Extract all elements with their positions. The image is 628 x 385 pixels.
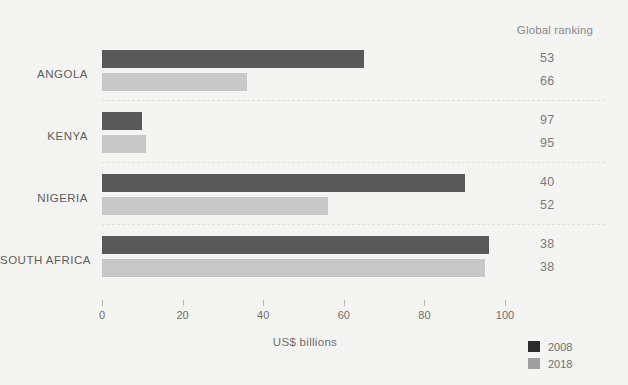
bar-track: [102, 50, 505, 68]
axis-tick-label: 100: [485, 309, 525, 321]
bar-chart: Global ranking ANGOLA5366KENYA9795NIGERI…: [0, 0, 628, 385]
bar-2008[interactable]: [102, 112, 142, 130]
bar-track: [102, 236, 505, 254]
category-label: SOUTH AFRICA: [0, 254, 88, 266]
bar-2008[interactable]: [102, 50, 364, 68]
axis-tick: [183, 300, 184, 306]
category-label: ANGOLA: [0, 68, 88, 80]
global-ranking-value: 95: [540, 136, 586, 150]
bar-track: [102, 73, 505, 91]
bar-2008[interactable]: [102, 174, 465, 192]
bar-2018[interactable]: [102, 259, 485, 277]
category-label: NIGERIA: [0, 192, 88, 204]
group-separator: [102, 162, 605, 163]
global-ranking-value: 66: [540, 74, 586, 88]
bar-group: ANGOLA5366: [0, 50, 628, 107]
axis-tick: [263, 300, 264, 306]
global-ranking-value: 40: [540, 175, 586, 189]
bar-track: [102, 135, 505, 153]
global-ranking-value: 97: [540, 113, 586, 127]
bar-track: [102, 112, 505, 130]
category-label: KENYA: [0, 130, 88, 142]
legend-label-2008: 2008: [548, 341, 572, 353]
global-ranking-value: 52: [540, 198, 586, 212]
bar-group: SOUTH AFRICA3838: [0, 236, 628, 293]
bar-group: NIGERIA4052: [0, 174, 628, 231]
axis-tick: [344, 300, 345, 306]
global-ranking-value: 53: [540, 51, 586, 65]
legend-label-2018: 2018: [548, 358, 572, 370]
axis-tick: [424, 300, 425, 306]
chart-legend: 2008 2018: [528, 338, 618, 372]
legend-swatch-2018-icon: [528, 358, 540, 369]
bar-track: [102, 197, 505, 215]
legend-item-2008: 2008: [528, 338, 618, 355]
axis-tick: [505, 300, 506, 306]
bar-2018[interactable]: [102, 135, 146, 153]
bar-track: [102, 174, 505, 192]
group-separator: [102, 224, 605, 225]
group-separator: [102, 100, 605, 101]
x-axis: 020406080100: [0, 300, 628, 334]
legend-item-2018: 2018: [528, 355, 618, 372]
bar-2018[interactable]: [102, 73, 247, 91]
axis-tick-label: 40: [243, 309, 283, 321]
axis-tick-label: 80: [404, 309, 444, 321]
global-ranking-header: Global ranking: [500, 24, 610, 36]
bar-2018[interactable]: [102, 197, 328, 215]
axis-tick-label: 20: [163, 309, 203, 321]
global-ranking-value: 38: [540, 237, 586, 251]
axis-tick-label: 0: [82, 309, 122, 321]
global-ranking-value: 38: [540, 260, 586, 274]
x-axis-title: US$ billions: [205, 336, 405, 348]
plot-area: ANGOLA5366KENYA9795NIGERIA4052SOUTH AFRI…: [0, 50, 628, 300]
axis-tick-label: 60: [324, 309, 364, 321]
bar-2008[interactable]: [102, 236, 489, 254]
bar-group: KENYA9795: [0, 112, 628, 169]
axis-tick: [102, 300, 103, 306]
legend-swatch-2008-icon: [528, 341, 540, 352]
bar-track: [102, 259, 505, 277]
